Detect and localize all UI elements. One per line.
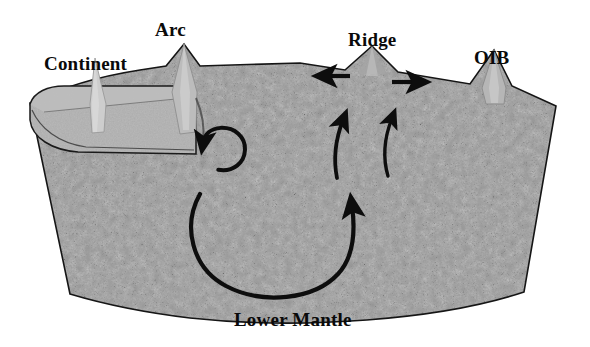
mantle-convection-figure: Continent Arc Ridge OIB Lower Mantle — [0, 0, 590, 347]
label-arc: Arc — [155, 20, 186, 39]
label-continent: Continent — [44, 54, 127, 73]
label-lower-mantle: Lower Mantle — [234, 310, 352, 329]
label-oib: OIB — [474, 48, 509, 67]
label-ridge: Ridge — [348, 30, 397, 49]
